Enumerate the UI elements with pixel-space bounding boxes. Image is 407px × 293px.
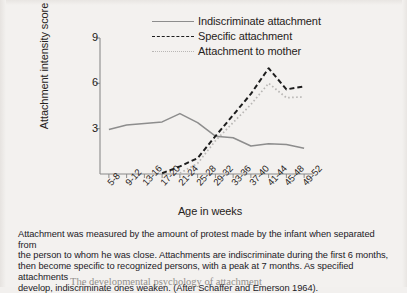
chart-svg — [0, 0, 407, 222]
y-axis-title: Attachment intensity score — [38, 1, 50, 131]
y-axis-tick-3: 3 — [84, 122, 98, 134]
x-axis-title: Age in weeks — [130, 205, 290, 217]
y-axis-tick-6: 6 — [84, 76, 98, 88]
chart-plot-area: Attachment intensity score 369 5-89-1213… — [0, 0, 407, 222]
series-line-0 — [109, 114, 304, 149]
page-bleed-text: The developmental psychology of attachme… — [70, 276, 400, 287]
y-axis-tick-labels: 369 — [84, 0, 98, 180]
series-line-2 — [180, 83, 304, 173]
caption-line-1: Attachment was measured by the amount of… — [18, 229, 390, 250]
series-line-1 — [162, 68, 304, 173]
y-axis-tick-9: 9 — [84, 31, 98, 43]
caption-line-2: the person to whom he was close. Attachm… — [18, 250, 390, 261]
